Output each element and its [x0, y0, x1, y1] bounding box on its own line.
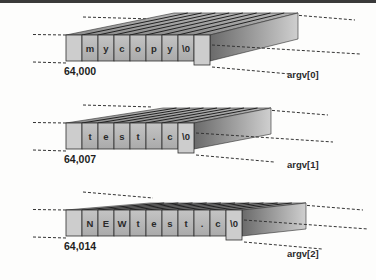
cell-char: o [135, 43, 141, 54]
guide-dashed-line [33, 210, 66, 211]
guide-dashed-line [267, 110, 328, 115]
cell-char: c [119, 43, 124, 54]
memory-cell [194, 35, 210, 65]
guide-dashed-line [83, 105, 153, 107]
memory-cell: E [98, 210, 114, 236]
cell-char: s [119, 131, 124, 142]
cell-char: \0 [182, 43, 190, 54]
guide-dashed-line [212, 67, 290, 74]
guide-dashed-line [83, 192, 153, 198]
guide-dashed-line [33, 123, 66, 124]
memory-cell: . [194, 210, 210, 236]
memory-cell: t [130, 210, 146, 236]
memory-cell: e [98, 123, 114, 149]
memory-cell: c [114, 35, 130, 61]
string-block-argv0: mycopy\0 64,000 argv[0] [33, 13, 360, 80]
cell-char: c [215, 218, 220, 229]
cell-char: \0 [182, 131, 190, 142]
cell-char: . [153, 131, 156, 142]
argv-label: argv[1] [287, 159, 319, 170]
cell-char: e [151, 218, 156, 229]
guide-dashed-line [33, 237, 66, 238]
memory-cell: . [146, 123, 162, 149]
cell-char: m [86, 43, 94, 54]
cell-char: W [118, 218, 127, 229]
start-address: 64,014 [64, 240, 96, 252]
memory-cell: c [210, 210, 226, 236]
guide-dashed-line [294, 15, 355, 20]
memory-cell: y [162, 35, 178, 61]
memory-cell: \0 [178, 35, 194, 61]
cell-char: c [167, 131, 172, 142]
argv-label: argv[0] [287, 69, 319, 80]
cell-char: e [103, 131, 108, 142]
argv-memory-diagram: mycopy\0 64,000 argv[0] test.c\0 64,007 … [0, 0, 376, 280]
memory-cell: o [130, 35, 146, 61]
cell-char: E [103, 218, 109, 229]
start-address: 64,007 [64, 153, 96, 165]
guide-dashed-line [33, 62, 66, 63]
start-address: 64,000 [64, 65, 96, 77]
argv-label: argv[2] [287, 248, 319, 259]
memory-cell: t [178, 210, 194, 236]
cell-char: y [103, 43, 109, 54]
memory-cell [66, 210, 82, 236]
memory-cell: c [162, 123, 178, 149]
memory-cell: e [146, 210, 162, 236]
memory-cell: N [82, 210, 98, 236]
guide-dashed-line [83, 17, 153, 19]
string-block-argv2: NEWtest.c\0 64,014 argv[2] [33, 192, 368, 259]
memory-cell [66, 123, 82, 149]
memory-cell: \0 [226, 210, 242, 240]
memory-cell: y [98, 35, 114, 61]
memory-cell: W [114, 210, 130, 236]
cell-char: p [151, 43, 157, 54]
memory-cell: s [162, 210, 178, 236]
memory-cell: s [114, 123, 130, 149]
cell-char: \0 [230, 218, 238, 229]
guide-dashed-line [196, 155, 274, 162]
memory-cell: t [82, 123, 98, 149]
cell-char: s [167, 218, 172, 229]
guide-dashed-line [33, 35, 66, 36]
guide-dashed-line [33, 150, 66, 151]
guide-dashed-line [302, 205, 363, 210]
string-block-argv1: test.c\0 64,007 argv[1] [33, 105, 333, 170]
memory-cell: t [130, 123, 146, 149]
cell-char: N [87, 218, 94, 229]
memory-cell: m [82, 35, 98, 61]
memory-cell: p [146, 35, 162, 61]
memory-cell: \0 [178, 123, 194, 153]
diagram-canvas: mycopy\0 64,000 argv[0] test.c\0 64,007 … [0, 0, 376, 280]
memory-cell [66, 35, 82, 61]
cell-char: . [201, 218, 204, 229]
cell-char: y [167, 43, 173, 54]
